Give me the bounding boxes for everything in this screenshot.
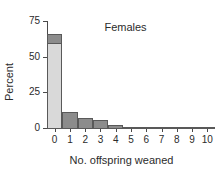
bar <box>108 125 123 129</box>
x-axis-label: No. offspring weaned <box>0 154 221 167</box>
x-tick-mark <box>116 129 117 132</box>
y-tick-label: 75 <box>29 16 40 26</box>
x-tick-label: 9 <box>184 134 200 145</box>
x-tick-label: 8 <box>169 134 185 145</box>
bar <box>184 127 199 129</box>
bar <box>93 120 108 129</box>
x-tick-mark <box>162 129 163 132</box>
bar <box>78 118 93 129</box>
x-tick-label: 2 <box>77 134 93 145</box>
y-tick-label: 25 <box>29 87 40 97</box>
y-tick-label: 50 <box>29 52 40 62</box>
y-axis-label: Percent <box>2 47 16 117</box>
x-tick-mark <box>146 129 147 132</box>
bar-segment-cap <box>47 34 62 44</box>
x-tick-mark <box>85 129 86 132</box>
x-tick-label: 3 <box>92 134 108 145</box>
bar <box>62 112 77 129</box>
bar <box>200 127 215 129</box>
x-tick-label: 5 <box>123 134 139 145</box>
x-tick-mark <box>55 129 56 132</box>
x-tick-label: 6 <box>138 134 154 145</box>
x-tick-mark <box>131 129 132 132</box>
bar <box>169 127 184 129</box>
bar-series <box>47 21 215 129</box>
bar <box>47 35 62 129</box>
histogram-figure: Females Percent 0255075 012345678910 No.… <box>0 0 221 177</box>
x-tick-mark <box>70 129 71 132</box>
y-axis-label-text: Percent <box>2 47 16 117</box>
x-tick-mark <box>192 129 193 132</box>
x-tick-label: 10 <box>199 134 215 145</box>
x-tick-label: 7 <box>154 134 170 145</box>
bar <box>123 127 138 129</box>
x-tick-mark <box>100 129 101 132</box>
x-tick-mark <box>177 129 178 132</box>
x-tick-label: 1 <box>62 134 78 145</box>
x-tick-label: 0 <box>47 134 63 145</box>
bar <box>139 127 154 129</box>
y-tick-label: 0 <box>34 123 40 133</box>
bar <box>154 127 169 129</box>
x-tick-mark <box>207 129 208 132</box>
x-tick-label: 4 <box>108 134 124 145</box>
